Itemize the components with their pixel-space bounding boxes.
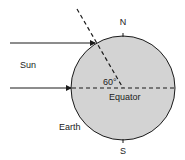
south-label: S: [120, 146, 126, 156]
north-label: N: [120, 17, 127, 27]
sun-earth-diagram: N S Sun Earth Equator 60°: [0, 0, 185, 160]
angle-label: 60°: [103, 77, 117, 87]
earth-label: Earth: [59, 122, 81, 132]
equator-label: Equator: [109, 92, 141, 102]
sun-label: Sun: [20, 60, 36, 70]
